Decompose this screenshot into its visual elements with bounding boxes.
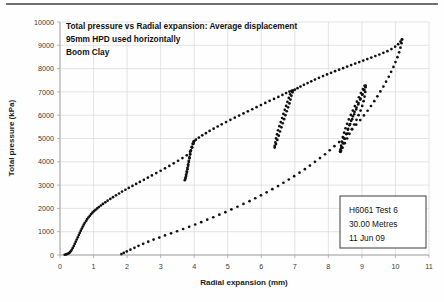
x-tick-label: 9 [360, 262, 364, 271]
data-point [124, 188, 127, 191]
data-point [373, 100, 376, 103]
data-point [135, 183, 138, 186]
y-tick-label: 7000 [38, 88, 54, 97]
data-point [185, 173, 188, 176]
chart-figure: 0100020003000400050006000700080009000100… [0, 0, 444, 302]
x-tick-label: 3 [159, 262, 163, 271]
data-point [276, 139, 279, 142]
data-point [357, 114, 360, 117]
data-point [255, 106, 258, 109]
x-tick-label: 5 [226, 262, 230, 271]
data-point [370, 105, 373, 108]
data-point [229, 119, 232, 122]
data-point [363, 95, 366, 98]
data-point [293, 175, 296, 178]
data-point [275, 143, 278, 146]
data-point [121, 190, 124, 193]
data-point [188, 156, 191, 159]
data-point [283, 118, 286, 121]
data-point [284, 114, 287, 117]
data-point [230, 208, 233, 211]
data-point [189, 153, 192, 156]
data-point [394, 61, 397, 64]
data-point [349, 123, 352, 126]
data-point [366, 109, 369, 112]
data-point [155, 172, 158, 175]
chart-title-line-3: Boom Clay [66, 47, 110, 57]
data-point [260, 194, 263, 197]
data-point [137, 244, 140, 247]
data-point [350, 64, 353, 67]
plot-container: 0100020003000400050006000700080009000100… [0, 0, 444, 302]
series-4 [293, 38, 403, 91]
data-point [201, 134, 204, 137]
data-point [353, 111, 356, 114]
data-point [387, 75, 390, 78]
data-point [394, 45, 397, 48]
data-point [138, 181, 141, 184]
data-point [242, 203, 245, 206]
y-tick-label: 8000 [38, 64, 54, 73]
data-point [334, 70, 337, 73]
data-point [277, 96, 280, 99]
data-point [164, 234, 167, 237]
data-point [236, 205, 239, 208]
data-point [358, 61, 361, 64]
data-point [254, 197, 257, 200]
data-point [382, 52, 385, 55]
y-tick-label: 6000 [38, 111, 54, 120]
data-point [290, 95, 293, 98]
data-point [177, 159, 180, 162]
data-point [181, 157, 184, 160]
data-point [251, 108, 254, 111]
data-point [342, 67, 345, 70]
data-point [346, 65, 349, 68]
data-point [191, 142, 194, 145]
data-point [379, 90, 382, 93]
data-point [359, 119, 362, 122]
data-point [341, 146, 344, 149]
data-point [273, 98, 276, 101]
data-point [242, 112, 245, 115]
data-point [247, 110, 250, 113]
data-point [288, 102, 291, 105]
data-point [397, 43, 400, 46]
data-point [342, 137, 345, 140]
data-point [143, 179, 146, 182]
data-point [346, 132, 349, 135]
data-point [351, 128, 354, 131]
data-point [172, 162, 175, 165]
data-point [212, 127, 215, 130]
data-point [170, 232, 173, 235]
data-point [298, 171, 301, 174]
data-point [355, 123, 358, 126]
data-point [216, 125, 219, 128]
data-point [287, 106, 290, 109]
data-point [280, 126, 283, 129]
data-point [212, 216, 215, 219]
data-point [390, 71, 393, 74]
data-point [279, 130, 282, 133]
data-point [127, 187, 130, 190]
data-point [346, 137, 349, 140]
y-tick-label: 2000 [38, 204, 54, 213]
data-point [200, 221, 203, 224]
data-point [363, 114, 366, 117]
data-point [347, 118, 350, 121]
data-point [273, 146, 276, 149]
data-point [115, 194, 118, 197]
data-point [248, 200, 251, 203]
data-point [131, 185, 134, 188]
data-point [125, 250, 128, 253]
data-point [366, 58, 369, 61]
data-point [359, 98, 362, 101]
data-point [190, 146, 193, 149]
data-point [399, 46, 402, 49]
data-point [194, 223, 197, 226]
data-point [151, 174, 154, 177]
data-point [314, 160, 317, 163]
data-point [185, 154, 188, 157]
data-point [333, 145, 336, 148]
data-point [186, 167, 189, 170]
y-tick-labels: 0100020003000400050006000700080009000100… [34, 18, 54, 260]
